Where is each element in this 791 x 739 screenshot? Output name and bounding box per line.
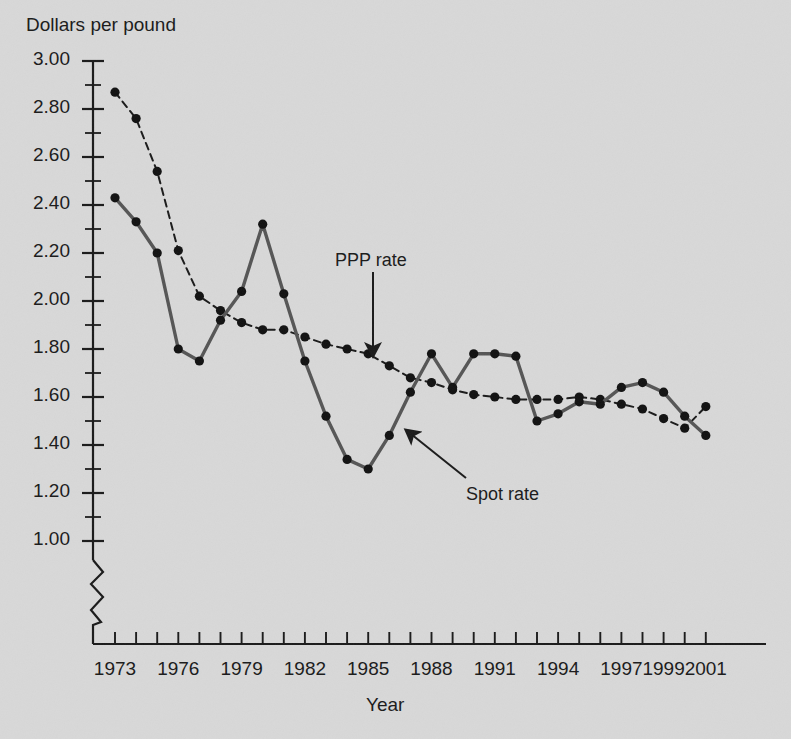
data-point	[406, 388, 415, 397]
data-point	[701, 402, 710, 411]
x-tick-label: 1999	[642, 658, 684, 680]
x-tick-label: 1997	[600, 658, 642, 680]
data-point	[532, 416, 541, 425]
series-line-spot-rate	[115, 198, 706, 469]
y-tick-label: 2.60	[8, 144, 70, 166]
data-point	[174, 344, 183, 353]
data-point	[617, 383, 626, 392]
data-point	[596, 400, 605, 409]
data-point	[153, 167, 162, 176]
data-point	[132, 217, 141, 226]
chart-plot-area	[0, 0, 791, 739]
data-point	[448, 383, 457, 392]
x-tick-label: 1994	[537, 658, 579, 680]
data-point	[701, 431, 710, 440]
data-point	[174, 246, 183, 255]
y-tick-label: 3.00	[8, 48, 70, 70]
data-point	[427, 378, 436, 387]
x-tick-label: 1985	[347, 658, 389, 680]
spot-rate-annotation-arrow	[406, 430, 466, 478]
data-point	[237, 318, 246, 327]
y-tick-label: 1.60	[8, 384, 70, 406]
data-point	[195, 292, 204, 301]
x-tick-label: 1982	[284, 658, 326, 680]
data-point	[216, 316, 225, 325]
data-point	[511, 395, 520, 404]
data-point	[659, 414, 668, 423]
data-point	[279, 289, 288, 298]
data-point	[300, 356, 309, 365]
data-point	[575, 397, 584, 406]
data-point	[469, 349, 478, 358]
x-tick-label: 1973	[94, 658, 136, 680]
y-tick-label: 1.20	[8, 480, 70, 502]
data-point	[321, 412, 330, 421]
data-point	[385, 361, 394, 370]
data-point	[364, 464, 373, 473]
data-point	[680, 412, 689, 421]
data-point	[469, 390, 478, 399]
data-point	[237, 287, 246, 296]
data-point	[554, 409, 563, 418]
data-series-group	[110, 88, 710, 474]
y-tick-label: 2.80	[8, 96, 70, 118]
data-point	[638, 404, 647, 413]
data-point	[427, 349, 436, 358]
y-tick-label: 1.80	[8, 336, 70, 358]
data-point	[321, 340, 330, 349]
x-tick-label: 1976	[157, 658, 199, 680]
y-tick-label: 2.00	[8, 288, 70, 310]
data-point	[110, 88, 119, 97]
chart-figure: Dollars per pound Year 3.002.802.602.402…	[0, 0, 791, 739]
data-point	[279, 325, 288, 334]
x-tick-label: 1979	[220, 658, 262, 680]
x-tick-label: 2001	[685, 658, 727, 680]
y-tick-label: 2.20	[8, 240, 70, 262]
data-point	[490, 392, 499, 401]
data-point	[406, 373, 415, 382]
data-point	[511, 352, 520, 361]
data-point	[110, 193, 119, 202]
data-point	[153, 248, 162, 257]
data-point	[659, 388, 668, 397]
data-point	[385, 431, 394, 440]
data-point	[132, 114, 141, 123]
data-point	[638, 378, 647, 387]
data-point	[343, 344, 352, 353]
data-point	[617, 400, 626, 409]
data-point	[490, 349, 499, 358]
y-tick-label: 2.40	[8, 192, 70, 214]
data-point	[258, 220, 267, 229]
data-point	[364, 349, 373, 358]
data-point	[680, 424, 689, 433]
y-tick-label: 1.00	[8, 528, 70, 550]
data-point	[258, 325, 267, 334]
data-point	[195, 356, 204, 365]
data-point	[343, 455, 352, 464]
x-tick-label: 1991	[474, 658, 516, 680]
data-point	[300, 332, 309, 341]
data-point	[532, 395, 541, 404]
x-tick-label: 1988	[410, 658, 452, 680]
spot-rate-annotation-label: Spot rate	[466, 484, 539, 505]
data-point	[554, 395, 563, 404]
ppp-rate-annotation-label: PPP rate	[335, 250, 407, 271]
y-tick-label: 1.40	[8, 432, 70, 454]
